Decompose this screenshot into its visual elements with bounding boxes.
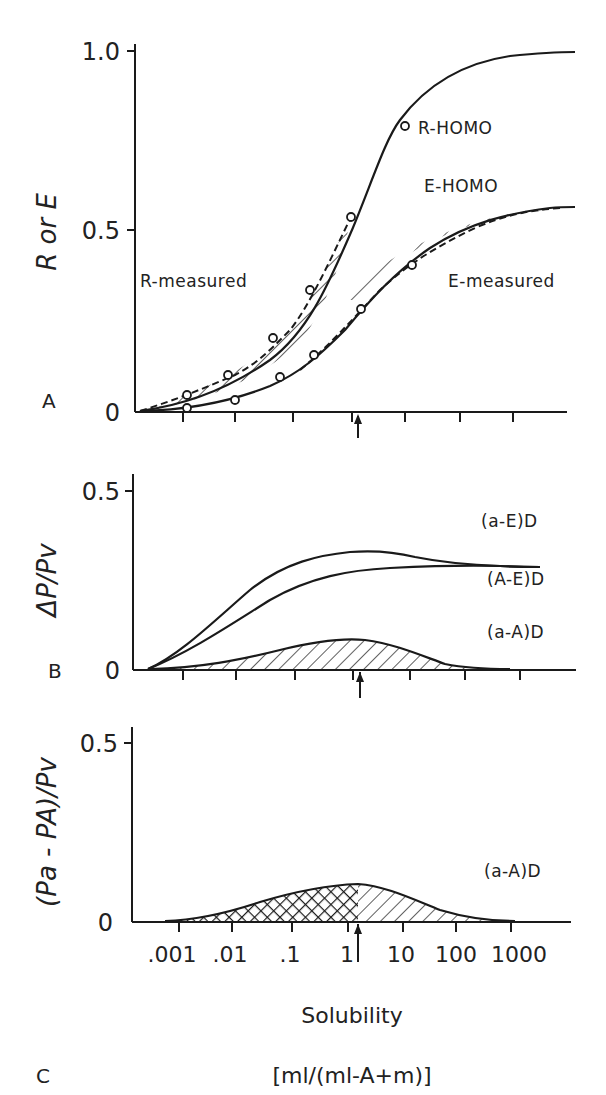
r-measured-points — [183, 122, 409, 399]
y-tick-label: 1.0 — [82, 38, 120, 66]
r-homo-label: R-HOMO — [418, 118, 492, 138]
panel-b-letter: B — [48, 659, 62, 683]
panel-c: 0 0.5 (Pa - PA)/Pv (a-A)D .001 .01 .1 1 … — [32, 727, 571, 1088]
figure: 1.0 0.5 0 R or E A — [0, 0, 606, 1095]
y-tick-label: 0.5 — [80, 730, 118, 758]
panel-b: 0.5 0 ΔP/Pv B (a-E)D (A-E)D (a-A)D — [32, 474, 576, 698]
A-E-label: (A-E)D — [487, 569, 545, 589]
panel-c-y-label: (Pa - PA)/Pv — [32, 756, 62, 906]
y-tick-label: 0.5 — [82, 478, 120, 506]
svg-text:10: 10 — [387, 942, 415, 967]
x-tick-labels: .001 .01 .1 1 10 100 1000 — [148, 942, 547, 967]
panel-b-y-label: ΔP/Pv — [32, 543, 62, 619]
y-tick-label: 0 — [105, 399, 120, 427]
r-measured-curve — [140, 215, 352, 411]
panel-a: 1.0 0.5 0 R or E A — [32, 38, 575, 438]
x-axis-units: [ml/(ml-A+m)] — [272, 1063, 431, 1088]
x-axis-title: Solubility — [301, 1003, 402, 1028]
r-hatched-area — [150, 212, 352, 410]
r-homo-curve — [140, 52, 575, 411]
panel-a-x-ticks — [183, 412, 513, 422]
y-tick-label: 0 — [98, 909, 113, 937]
panel-c-x-ticks — [179, 922, 511, 932]
svg-text:.01: .01 — [213, 942, 248, 967]
panel-a-y-label: R or E — [32, 193, 62, 271]
svg-text:.1: .1 — [280, 942, 301, 967]
svg-text:100: 100 — [435, 942, 477, 967]
c-a-A-label: (a-A)D — [484, 861, 541, 881]
a-A-label: (a-A)D — [487, 622, 544, 642]
panel-a-letter: A — [42, 389, 56, 413]
arrow-marker — [354, 414, 362, 438]
y-tick-label: 0 — [105, 657, 120, 685]
r-measured-label: R-measured — [140, 271, 247, 291]
arrow-marker — [356, 672, 364, 698]
c-hatched-area — [358, 884, 515, 921]
e-measured-label: E-measured — [448, 271, 555, 291]
panel-b-x-ticks — [183, 670, 520, 680]
e-homo-label: E-HOMO — [424, 176, 498, 196]
svg-text:1000: 1000 — [491, 942, 547, 967]
y-tick-label: 0.5 — [82, 217, 120, 245]
svg-text:.001: .001 — [148, 942, 197, 967]
panel-c-letter: C — [36, 1064, 50, 1088]
arrow-marker — [354, 924, 362, 962]
svg-text:1: 1 — [340, 942, 354, 967]
a-E-label: (a-E)D — [481, 511, 538, 531]
